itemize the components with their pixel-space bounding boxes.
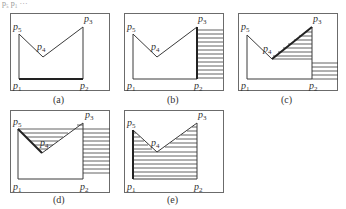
svg-text:p5: p5 xyxy=(12,116,22,129)
svg-text:p1: p1 xyxy=(12,80,22,93)
svg-text:p2: p2 xyxy=(79,80,89,93)
panel-d: p5 p4 p3 p1 p2 (d) xyxy=(11,109,111,206)
svg-text:p5: p5 xyxy=(126,117,136,130)
svg-text:p5: p5 xyxy=(12,21,22,34)
panel-c: p5 p4 p3 p1 p2 (c) xyxy=(239,13,339,106)
svg-text:p4: p4 xyxy=(150,137,160,150)
caption-e: (e) xyxy=(167,194,178,206)
caption-c: (c) xyxy=(281,94,292,106)
header-fragment: p₅ p₁ ··· xyxy=(2,0,28,8)
svg-text:p4: p4 xyxy=(39,137,49,150)
svg-text:p5: p5 xyxy=(240,21,250,34)
svg-text:p1: p1 xyxy=(240,80,250,93)
svg-text:p5: p5 xyxy=(126,21,136,34)
svg-text:p2: p2 xyxy=(193,80,203,93)
panel-e: p5 p4 p3 p1 p2 (e) xyxy=(125,109,224,206)
caption-b: (b) xyxy=(167,94,179,106)
svg-text:p3: p3 xyxy=(312,13,322,26)
polygon-fill-diagram: p₅ p₁ ··· p5 p4 p3 p1 p2 (a) p5 p4 p3 p1… xyxy=(0,0,346,209)
svg-text:p3: p3 xyxy=(197,13,207,26)
svg-text:p3: p3 xyxy=(83,13,93,26)
svg-text:p2: p2 xyxy=(308,80,318,93)
caption-a: (a) xyxy=(53,94,64,106)
caption-d: (d) xyxy=(53,194,65,206)
panel-b: p5 p4 p3 p1 p2 (b) xyxy=(125,13,224,106)
panel-a: p5 p4 p3 p1 p2 (a) xyxy=(11,13,110,106)
svg-text:p1: p1 xyxy=(126,80,136,93)
